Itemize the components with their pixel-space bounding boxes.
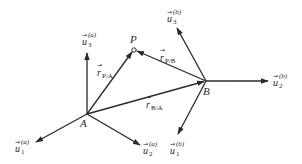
svg-text:(a): (a)	[21, 138, 30, 146]
svg-text:(b): (b)	[176, 140, 185, 148]
svg-text:(a): (a)	[149, 140, 158, 148]
svg-text:(b): (b)	[279, 72, 288, 80]
svg-text:u: u	[82, 36, 87, 47]
vector-r-pa-arrow	[87, 52, 132, 114]
svg-text:2: 2	[279, 82, 283, 90]
svg-text:P/B: P/B	[165, 57, 176, 65]
label-u1a: → (a) u 1	[15, 138, 30, 156]
point-p-label: P	[129, 33, 137, 45]
svg-text:r: r	[160, 52, 164, 63]
svg-text:3: 3	[173, 18, 177, 26]
svg-text:u: u	[170, 145, 175, 156]
axis-u1b-arrow	[178, 81, 206, 134]
svg-text:r: r	[146, 99, 150, 110]
svg-text:1: 1	[176, 150, 180, 158]
svg-text:(a): (a)	[88, 31, 97, 39]
point-a-label: A	[79, 117, 87, 129]
point-b-label: B	[203, 85, 210, 97]
svg-text:2: 2	[149, 150, 153, 158]
svg-text:P/A: P/A	[102, 72, 113, 80]
svg-text:u: u	[167, 13, 172, 24]
svg-text:u: u	[15, 143, 20, 154]
axis-u2a-arrow	[87, 114, 140, 145]
point-p-marker	[132, 48, 136, 52]
label-u3a: → (a) u 3	[82, 31, 97, 49]
svg-text:(b): (b)	[173, 8, 182, 16]
label-u3b: → (b) u 3	[167, 8, 182, 26]
label-r-pb: → r P/B	[160, 46, 176, 65]
vector-diagram: A B P → r P/A → r P/B → r B/A → (a) u 3 …	[0, 0, 302, 164]
svg-text:1: 1	[21, 148, 25, 156]
label-u1b: → (b) u 1	[170, 140, 185, 158]
label-u2b: → (b) u 2	[273, 72, 288, 90]
axis-u3b-arrow	[177, 28, 206, 81]
svg-text:r: r	[97, 67, 101, 78]
vector-r-pb-arrow	[137, 51, 206, 81]
svg-text:u: u	[273, 77, 278, 88]
svg-text:B/A: B/A	[151, 104, 163, 112]
svg-text:u: u	[143, 145, 148, 156]
label-r-pa: → r P/A	[97, 61, 113, 80]
label-u2a: → (a) u 2	[143, 140, 158, 158]
svg-text:3: 3	[88, 41, 92, 49]
